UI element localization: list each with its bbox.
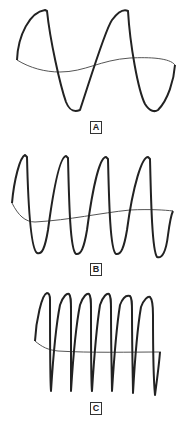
baseline-curve-b <box>12 203 173 222</box>
waveform-c <box>35 293 160 395</box>
panel-a <box>17 10 175 111</box>
waveform-figure <box>0 0 183 428</box>
panel-c <box>35 293 161 395</box>
panel-label-c: C <box>90 402 102 415</box>
panel-b <box>12 155 173 257</box>
waveform-b <box>12 155 173 257</box>
panel-label-a: A <box>90 121 102 134</box>
panel-label-b: B <box>90 263 102 276</box>
waveform-a <box>17 10 175 111</box>
